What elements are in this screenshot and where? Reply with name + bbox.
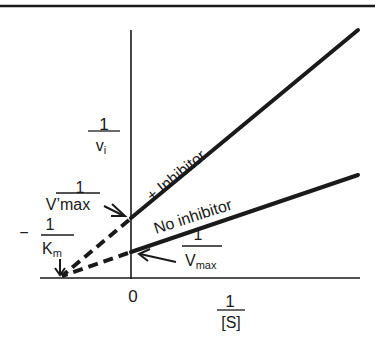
annotation-km: − 1 Km: [19, 216, 74, 275]
svg-text:vi: vi: [96, 137, 106, 156]
origin-label: 0: [128, 287, 137, 306]
annotation-vmax-prime: 1 V’max: [46, 179, 125, 216]
label-with-inhibitor: + Inhibitor: [143, 146, 209, 204]
svg-text:[S]: [S]: [221, 314, 241, 331]
lineweaver-burk-diagram: 1 vi 1 [S] 0 + Inhibitor No inhibitor 1 …: [0, 0, 377, 355]
svg-text:Km: Km: [42, 240, 62, 259]
dashed-extrapolation-no-inhibitor: [62, 253, 128, 276]
annotation-vmax: 1 Vmax: [139, 226, 222, 271]
dashed-extrapolation-inhibitor: [62, 220, 129, 276]
svg-text:1: 1: [225, 292, 234, 311]
svg-text:1: 1: [46, 216, 55, 233]
y-axis-label: 1 vi: [88, 115, 120, 156]
svg-text:Vmax: Vmax: [185, 252, 217, 271]
svg-text:−: −: [19, 224, 28, 241]
svg-text:1: 1: [194, 226, 203, 243]
x-axis-label: 1 [S]: [217, 292, 245, 331]
svg-text:V’max: V’max: [46, 196, 90, 213]
